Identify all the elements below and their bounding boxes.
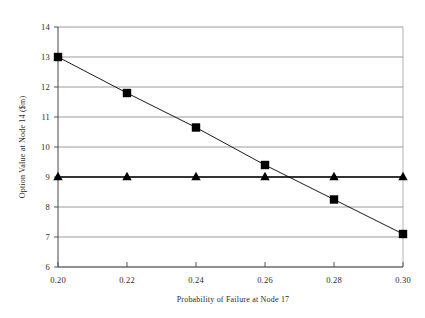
- x-tick-label: 0.24: [188, 275, 204, 285]
- chart-figure: 67891011121314 0.200.220.240.260.280.30 …: [0, 0, 425, 318]
- y-tick-label: 9: [46, 172, 50, 182]
- y-tick-label: 12: [41, 82, 50, 92]
- x-tick-label: 0.28: [326, 275, 342, 285]
- x-tick-label: 0.22: [119, 275, 135, 285]
- x-tick-label: 0.26: [257, 275, 273, 285]
- data-point-square: [399, 230, 407, 238]
- x-tick-label: 0.20: [50, 275, 66, 285]
- x-axis-title: Probability of Failure at Node 17: [177, 295, 290, 304]
- y-tick-label: 8: [46, 202, 50, 212]
- data-point-square: [330, 195, 338, 203]
- y-tick-label: 10: [41, 142, 50, 152]
- data-point-square: [261, 161, 269, 169]
- x-tick-label: 0.30: [395, 275, 411, 285]
- y-tick-label: 6: [46, 262, 50, 272]
- y-axis-title: Option Value at Node 14 ($m): [18, 96, 27, 199]
- data-point-square: [192, 123, 200, 131]
- data-point-square: [54, 53, 62, 61]
- y-tick-label: 11: [41, 112, 50, 122]
- chart-background: [0, 0, 425, 318]
- data-point-square: [123, 89, 131, 97]
- y-tick-label: 7: [46, 232, 50, 242]
- y-tick-label: 13: [41, 52, 50, 62]
- y-tick-label: 14: [41, 22, 50, 32]
